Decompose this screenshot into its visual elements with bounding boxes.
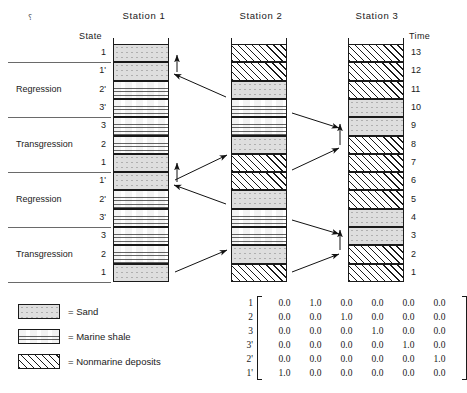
matrix-cell: 0.0 <box>331 324 362 338</box>
matrix-cell: 0.0 <box>269 310 300 324</box>
matrix-row-label: 2 <box>239 310 253 324</box>
station-1-right-tick <box>168 38 169 45</box>
station-1-column <box>113 44 169 282</box>
state-label: 3' <box>84 212 106 222</box>
layer-nonmarine <box>349 264 403 282</box>
matrix-cell: 0.0 <box>331 352 362 366</box>
state-axis-caption: State <box>79 31 102 41</box>
layer-sand <box>114 264 168 282</box>
matrix-row-labels: 1233'2'1' <box>239 296 257 380</box>
layer-marine-shale <box>114 117 168 135</box>
layer-sand <box>232 245 286 263</box>
station-3-layer-stack <box>349 44 403 282</box>
station-1-layer-stack <box>114 44 168 282</box>
matrix-cell: 0.0 <box>393 324 424 338</box>
state-label: 3' <box>84 102 106 112</box>
matrix-cell: 0.0 <box>331 366 362 380</box>
station-2-column <box>231 44 287 282</box>
matrix-cell: 0.0 <box>393 352 424 366</box>
layer-marine-shale <box>114 245 168 263</box>
matrix-left-bracket <box>257 296 264 380</box>
arrow-s1-to-s2-lower <box>175 155 227 180</box>
matrix-cell: 0.0 <box>362 352 393 366</box>
state-label: 1 <box>84 267 106 277</box>
legend-swatch-sand <box>18 304 60 319</box>
layer-marine-shale <box>232 99 286 117</box>
cycle-label-transgression: Transgression <box>16 139 73 149</box>
matrix-row: 0.01.00.00.00.00.0 <box>269 296 455 310</box>
matrix-row-label: 2' <box>239 352 253 366</box>
time-label: 9 <box>411 120 427 130</box>
matrix-cell: 0.0 <box>300 324 331 338</box>
matrix-cell: 0.0 <box>362 310 393 324</box>
matrix-row: 0.00.00.00.01.00.0 <box>269 338 455 352</box>
matrix-cell: 0.0 <box>269 296 300 310</box>
layer-marine-shale <box>232 209 286 227</box>
matrix-row: 0.00.01.00.00.00.0 <box>269 310 455 324</box>
matrix-grid: 0.01.00.00.00.00.00.00.01.00.00.00.00.00… <box>264 296 460 380</box>
layer-sand <box>232 190 286 208</box>
layer-sand <box>114 154 168 172</box>
matrix-cell: 0.0 <box>424 338 455 352</box>
matrix-cell: 0.0 <box>362 338 393 352</box>
state-label: 2 <box>84 139 106 149</box>
layer-marine-shale <box>232 117 286 135</box>
state-label: 2' <box>84 84 106 94</box>
layer-sand <box>349 117 403 135</box>
station-2-title: Station 2 <box>222 10 300 21</box>
layer-marine-shale <box>114 209 168 227</box>
station-3-right-tick <box>403 38 404 45</box>
layer-nonmarine <box>232 62 286 80</box>
matrix-cell: 0.0 <box>362 366 393 380</box>
time-label: 7 <box>411 157 427 167</box>
station-3-title: Station 3 <box>338 10 416 21</box>
legend-label-marine-shale: = Marine shale <box>68 331 131 342</box>
time-label: 11 <box>411 84 427 94</box>
time-label: 4 <box>411 212 427 222</box>
matrix-cell: 0.0 <box>393 310 424 324</box>
matrix-row: 0.00.00.01.00.00.0 <box>269 324 455 338</box>
cycle-divider <box>8 62 111 63</box>
layer-nonmarine <box>232 172 286 190</box>
layer-nonmarine <box>349 136 403 154</box>
layer-marine-shale <box>114 99 168 117</box>
station-2-left-tick <box>231 38 232 45</box>
matrix-cell: 1.0 <box>331 310 362 324</box>
time-label: 10 <box>411 102 427 112</box>
matrix-row-label: 3 <box>239 324 253 338</box>
layer-sand <box>349 227 403 245</box>
layer-marine-shale <box>114 136 168 154</box>
layer-nonmarine <box>349 81 403 99</box>
layer-nonmarine <box>349 154 403 172</box>
matrix-cell: 0.0 <box>393 366 424 380</box>
arrow-s2-to-s3-mid <box>292 148 339 170</box>
layer-nonmarine <box>349 172 403 190</box>
layer-sand <box>349 209 403 227</box>
time-label: 6 <box>411 175 427 185</box>
matrix-cell: 1.0 <box>362 324 393 338</box>
cycle-label-regression: Regression <box>16 84 62 94</box>
layer-nonmarine <box>232 44 286 62</box>
time-label: 12 <box>411 65 427 75</box>
layer-nonmarine <box>349 62 403 80</box>
time-axis-caption: Time <box>409 31 430 41</box>
matrix-cell: 1.0 <box>269 366 300 380</box>
matrix-row-label: 3' <box>239 338 253 352</box>
matrix-cell: 0.0 <box>362 296 393 310</box>
matrix-cell: 0.0 <box>300 352 331 366</box>
stray-mark: ⸮ <box>28 16 32 20</box>
layer-nonmarine <box>232 154 286 172</box>
time-label: 2 <box>411 249 427 259</box>
station-3-left-tick <box>348 38 349 45</box>
layer-marine-shale <box>114 227 168 245</box>
layer-marine-shale <box>114 190 168 208</box>
layer-sand <box>232 136 286 154</box>
state-label: 1' <box>84 175 106 185</box>
state-label: 3 <box>84 230 106 240</box>
time-label: 1 <box>411 267 427 277</box>
legend-swatch-marine-shale <box>18 329 60 344</box>
station-2-layer-stack <box>232 44 286 282</box>
matrix-cell: 1.0 <box>300 296 331 310</box>
matrix-cell: 0.0 <box>331 296 362 310</box>
arrow-s2-to-s3-bottom <box>292 254 339 272</box>
